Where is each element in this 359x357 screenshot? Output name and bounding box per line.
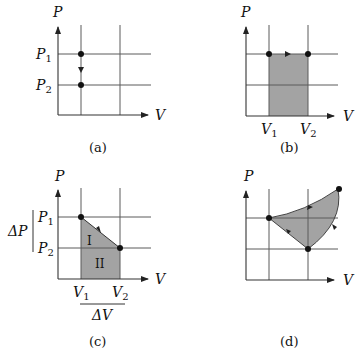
state-point-1 xyxy=(78,51,84,57)
state-point-b xyxy=(305,246,311,252)
process-arrow-icon xyxy=(78,67,84,73)
v-axis-label: V xyxy=(343,108,355,124)
v2-label: V2 xyxy=(112,284,129,302)
p1-label: P1 xyxy=(35,46,52,64)
region-i-label: I xyxy=(87,234,92,248)
delta-v-label: ΔV xyxy=(91,307,114,323)
panel-c: I II P V P1 P2 ΔP V1 V2 ΔV (c) xyxy=(7,168,167,349)
pv-diagrams: P V P1 P2 (a) P V V1 V2 (b) I I xyxy=(0,0,359,357)
state-point-c xyxy=(336,186,342,192)
p2-label: P2 xyxy=(37,240,54,258)
cycle-area xyxy=(269,189,339,249)
p-axis-label: P xyxy=(54,168,65,184)
process-arrow-icon xyxy=(332,224,337,230)
v1-label: V1 xyxy=(73,284,90,302)
caption-d: (d) xyxy=(280,334,298,349)
p2-label: P2 xyxy=(35,77,52,95)
state-point-1 xyxy=(266,51,272,57)
state-point-2 xyxy=(305,51,311,57)
state-point-2 xyxy=(78,82,84,88)
caption-a: (a) xyxy=(89,140,107,155)
p1-label: P1 xyxy=(37,209,54,227)
panel-b: P V V1 V2 (b) xyxy=(240,4,355,155)
state-point-2 xyxy=(117,245,123,251)
region-ii-label: II xyxy=(95,257,105,271)
caption-c: (c) xyxy=(89,334,106,349)
state-point-1 xyxy=(78,214,84,220)
panel-d: P V (d) xyxy=(243,168,355,349)
p-axis-label: P xyxy=(240,4,251,20)
v-axis-label: V xyxy=(343,272,355,288)
state-point-a xyxy=(266,215,272,221)
v2-label: V2 xyxy=(300,121,317,139)
v1-label: V1 xyxy=(261,121,278,139)
caption-b: (b) xyxy=(280,140,298,155)
v-axis-label: V xyxy=(155,107,167,123)
p-axis-label: P xyxy=(243,168,254,184)
p-axis-label: P xyxy=(52,4,63,20)
v-axis-label: V xyxy=(155,271,167,287)
panel-a: P V P1 P2 (a) xyxy=(35,4,167,155)
delta-p-label: ΔP xyxy=(7,223,28,239)
